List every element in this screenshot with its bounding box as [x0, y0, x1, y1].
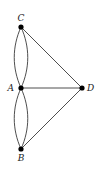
node-d — [79, 85, 84, 90]
edge-a-b-right — [21, 88, 28, 149]
graph-diagram: C A D B — [0, 0, 102, 170]
edge-a-c-right — [21, 27, 28, 88]
label-b: B — [17, 153, 25, 163]
node-c — [18, 24, 23, 29]
edge-a-c-left — [14, 27, 21, 88]
edge-a-b-left — [14, 88, 21, 149]
label-a: A — [7, 83, 15, 93]
edge-b-d — [21, 88, 82, 149]
edge-c-d — [21, 27, 82, 88]
node-b — [18, 146, 23, 151]
node-a — [18, 85, 23, 90]
label-c: C — [18, 13, 25, 23]
label-d: D — [86, 83, 94, 93]
